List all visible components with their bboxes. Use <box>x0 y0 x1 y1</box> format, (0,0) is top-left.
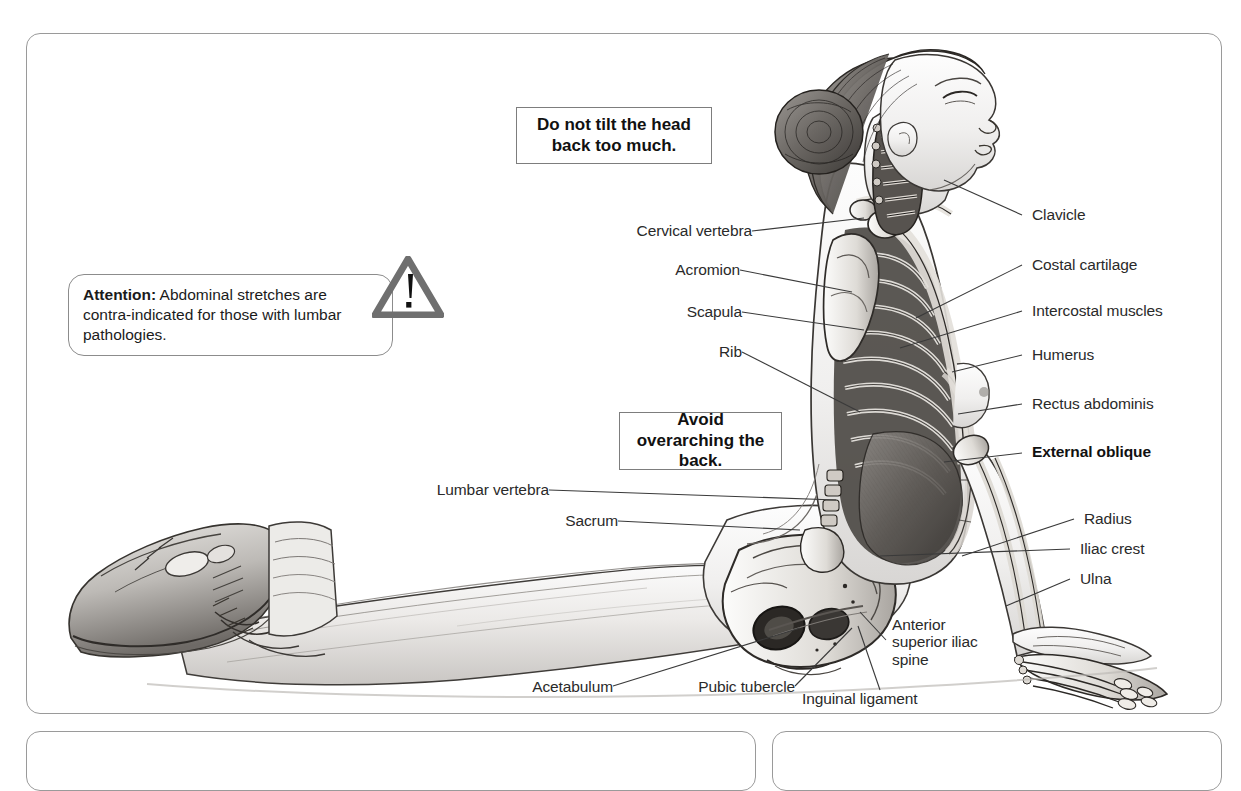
label-pubic-tubercle: Pubic tubercle <box>698 678 795 695</box>
label-inguinal-ligament: Inguinal ligament <box>802 690 918 707</box>
label-scapula: Scapula <box>687 303 742 320</box>
label-cervical-vertebra: Cervical vertebra <box>637 222 752 239</box>
label-intercostal-muscles: Intercostal muscles <box>1032 302 1163 319</box>
label-anterior-superior-iliac-spine: Anterior superior iliac spine <box>892 616 984 668</box>
attention-callout: Attention: Abdominal stretches are contr… <box>68 274 393 356</box>
bottom-left-panel <box>26 731 756 791</box>
label-sacrum: Sacrum <box>565 512 618 529</box>
label-lumbar-vertebra: Lumbar vertebra <box>437 481 549 498</box>
label-rectus-abdominis: Rectus abdominis <box>1032 395 1154 412</box>
label-clavicle: Clavicle <box>1032 206 1085 223</box>
label-iliac-crest: Iliac crest <box>1080 540 1144 557</box>
label-acromion: Acromion <box>675 261 740 278</box>
label-rib: Rib <box>719 343 742 360</box>
label-humerus: Humerus <box>1032 346 1094 363</box>
warning-triangle-icon <box>372 256 444 318</box>
label-ulna: Ulna <box>1080 570 1111 587</box>
note-avoid-overarching: Avoid overarching the back. <box>619 412 782 470</box>
attention-text: Attention: Abdominal stretches are contr… <box>83 285 378 344</box>
attention-lead: Attention: <box>83 286 156 303</box>
label-external-oblique: External oblique <box>1032 443 1151 460</box>
label-acetabulum: Acetabulum <box>532 678 613 695</box>
bottom-right-panel <box>772 731 1222 791</box>
label-costal-cartilage: Costal cartilage <box>1032 256 1137 273</box>
label-radius: Radius <box>1084 510 1132 527</box>
note-do-not-tilt-head: Do not tilt the head back too much. <box>516 107 712 164</box>
